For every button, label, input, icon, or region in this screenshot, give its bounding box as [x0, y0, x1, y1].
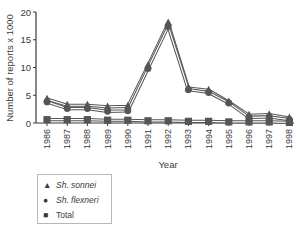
circle-marker [124, 107, 131, 114]
square-marker [104, 117, 111, 124]
circle-marker [185, 86, 192, 93]
x-tick-label: 1998 [284, 129, 294, 149]
x-axis-label: Year [158, 159, 177, 170]
y-axis-label: Number of reports x 1000 [4, 14, 15, 122]
square-marker [266, 118, 273, 125]
circle-marker [225, 100, 232, 107]
square-marker [205, 118, 212, 125]
y-tick-label: 5 [26, 90, 31, 101]
x-tick-label: 1992 [163, 129, 173, 149]
circle-marker [165, 23, 172, 30]
square-marker [286, 119, 293, 126]
square-marker [84, 116, 91, 123]
square-icon: ■ [43, 210, 52, 220]
square-marker [225, 118, 232, 125]
x-tick-label: 1986 [42, 129, 52, 149]
x-tick-label: 1995 [224, 129, 234, 149]
circle-marker [44, 99, 51, 106]
circle-marker [84, 105, 91, 112]
square-marker [124, 117, 131, 124]
y-tick-label: 20 [20, 7, 31, 18]
legend: ▲Sh. sonnei ●Sh. flexneri ■Total [37, 174, 112, 224]
y-tick-label: 0 [26, 118, 31, 129]
legend-item-flexneri: ●Sh. flexneri [43, 194, 99, 205]
x-tick-label: 1993 [183, 129, 193, 149]
square-marker [165, 117, 172, 124]
plot-area: 0510152019861987198819891990199119921993… [20, 7, 294, 150]
x-tick-label: 1991 [143, 129, 153, 149]
circle-marker [104, 108, 111, 115]
series-line [47, 23, 289, 118]
x-tick-label: 1997 [264, 129, 274, 149]
square-marker [185, 118, 192, 125]
x-tick-label: 1987 [62, 129, 72, 149]
x-tick-label: 1994 [204, 129, 214, 149]
y-tick-label: 10 [20, 62, 31, 73]
x-tick-label: 1989 [103, 129, 113, 149]
legend-item-total: ■Total [43, 209, 74, 220]
legend-item-sonnei: ▲Sh. sonnei [43, 179, 96, 190]
y-tick-label: 15 [20, 34, 31, 45]
square-marker [144, 117, 151, 124]
square-marker [64, 116, 71, 123]
circle-icon: ● [43, 195, 52, 205]
square-marker [43, 116, 50, 123]
circle-marker [145, 65, 152, 72]
circle-marker [64, 105, 71, 112]
triangle-icon: ▲ [43, 180, 52, 190]
x-tick-label: 1988 [82, 129, 92, 149]
square-marker [245, 118, 252, 125]
circle-marker [205, 89, 212, 96]
x-tick-label: 1996 [244, 129, 254, 149]
x-tick-label: 1990 [123, 129, 133, 149]
